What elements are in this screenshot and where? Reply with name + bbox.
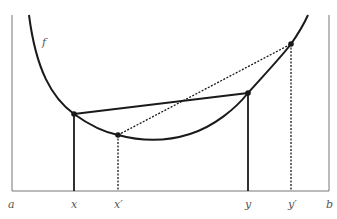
point-yprime xyxy=(288,41,294,47)
point-xprime xyxy=(115,132,121,138)
point-y xyxy=(245,90,251,96)
function-curve-f xyxy=(29,15,308,140)
chord-xprime-yprime xyxy=(118,44,291,135)
axis-label-y: y xyxy=(244,198,252,211)
function-label: f xyxy=(41,36,48,49)
axis-label-xprime: x′ xyxy=(114,198,123,211)
convex-function-diagram: f a x x′ y y′ b xyxy=(0,0,337,219)
point-x xyxy=(71,111,77,117)
chord-x-y xyxy=(74,93,248,114)
axis-label-b: b xyxy=(326,198,333,211)
axis-label-yprime: y′ xyxy=(287,198,297,211)
axis-label-a: a xyxy=(8,198,15,211)
axis-label-x: x xyxy=(71,198,78,211)
